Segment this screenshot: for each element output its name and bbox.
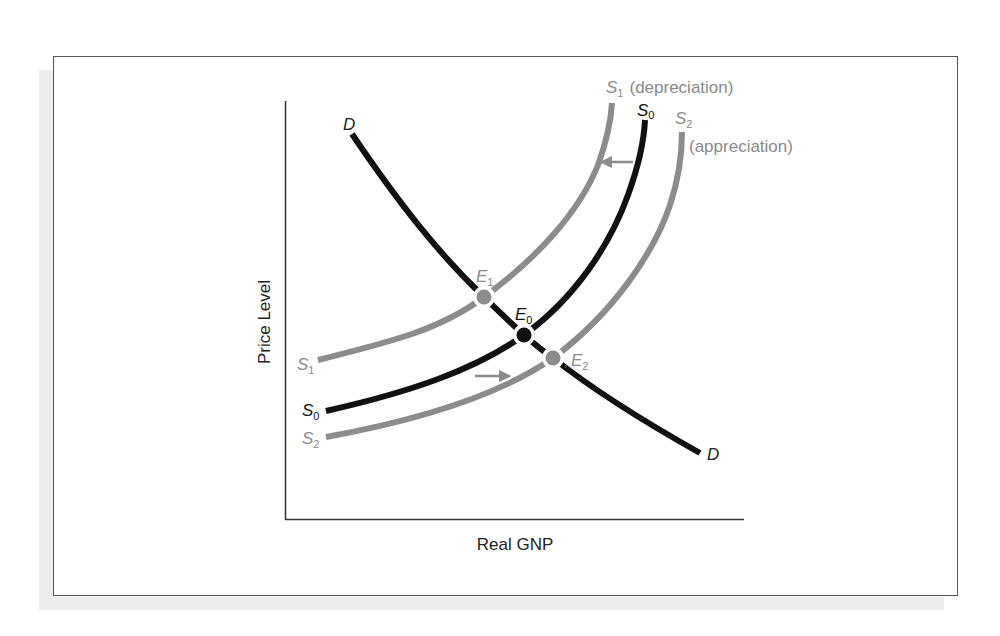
label-e0: E0 [515, 305, 532, 326]
y-axis-label: Price Level [255, 280, 274, 364]
label-s0-top: S0 [637, 101, 654, 121]
label-s1-top: S1(depreciation) [606, 78, 733, 99]
label-s2-left: S2 [302, 429, 319, 450]
chart: Real GNP Price Level D D S1(depreciation… [0, 0, 1000, 636]
label-e1: E1 [476, 267, 493, 288]
label-s0-left: S0 [302, 401, 319, 422]
label-s1-left: S1 [297, 355, 314, 376]
equilibrium-e0-point [517, 328, 532, 343]
curve-d [352, 134, 700, 453]
curve-s1 [318, 103, 612, 360]
x-axis-label: Real GNP [477, 535, 554, 554]
label-d-top: D [343, 115, 355, 134]
equilibrium-e1-point [477, 290, 492, 305]
label-d-bottom: D [707, 445, 719, 464]
equilibrium-e2-point [546, 351, 561, 366]
label-s2-top: S2 [675, 109, 692, 130]
label-e2: E2 [571, 351, 588, 372]
label-s2-note: (appreciation) [689, 137, 793, 156]
